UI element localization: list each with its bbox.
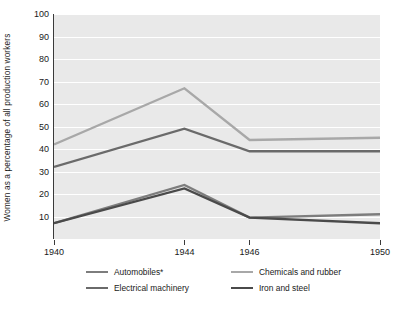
legend-item-label: Chemicals and rubber (259, 268, 341, 277)
legend-item-label: Electrical machinery (114, 284, 189, 293)
y-tick-label-20: 20 (39, 190, 49, 199)
x-tick-label-1950: 1950 (370, 247, 390, 257)
x-tick-mark-1946 (249, 240, 250, 245)
legend-item[interactable]: Automobiles* (86, 266, 163, 278)
x-tick-mark-1940 (54, 240, 55, 245)
y-tick-label-70: 70 (39, 77, 49, 86)
legend-swatch-icon (86, 287, 108, 290)
series-lines (54, 14, 380, 239)
y-tick-label-30: 30 (39, 167, 49, 176)
x-tick-mark-1944 (184, 240, 185, 245)
series-line-chemicals-and-rubber (54, 88, 380, 144)
y-tick-label-60: 60 (39, 100, 49, 109)
y-axis-title-text: Women as a percentage of all production … (4, 34, 13, 222)
y-tick-label-50: 50 (39, 122, 49, 131)
legend-item[interactable]: Chemicals and rubber (231, 266, 341, 278)
legend-item[interactable]: Electrical machinery (86, 282, 189, 294)
line-chart-figure: Women as a percentage of all production … (0, 0, 399, 309)
x-tick-label-1946: 1946 (240, 247, 260, 257)
y-tick-label-100: 100 (34, 10, 49, 19)
series-line-electrical-machinery (54, 129, 380, 167)
legend-swatch-icon (231, 287, 253, 290)
x-tick-label-1940: 1940 (44, 247, 64, 257)
chart-legend: Automobiles*Chemicals and rubberElectric… (86, 266, 386, 300)
y-tick-label-10: 10 (39, 212, 49, 221)
series-line-iron-and-steel (54, 188, 380, 223)
y-tick-label-40: 40 (39, 145, 49, 154)
y-axis-spine (53, 14, 54, 239)
y-axis-tick-labels: 102030405060708090100 (16, 0, 54, 255)
legend-item-label: Automobiles* (114, 268, 163, 277)
legend-item-label: Iron and steel (259, 284, 310, 293)
x-tick-label-1944: 1944 (174, 247, 194, 257)
legend-item[interactable]: Iron and steel (231, 282, 310, 294)
plot-area (54, 14, 380, 239)
y-axis-title: Women as a percentage of all production … (0, 0, 16, 255)
legend-swatch-icon (231, 271, 253, 274)
x-tick-mark-1950 (380, 240, 381, 245)
y-tick-label-90: 90 (39, 32, 49, 41)
legend-swatch-icon (86, 271, 108, 274)
y-tick-label-80: 80 (39, 55, 49, 64)
